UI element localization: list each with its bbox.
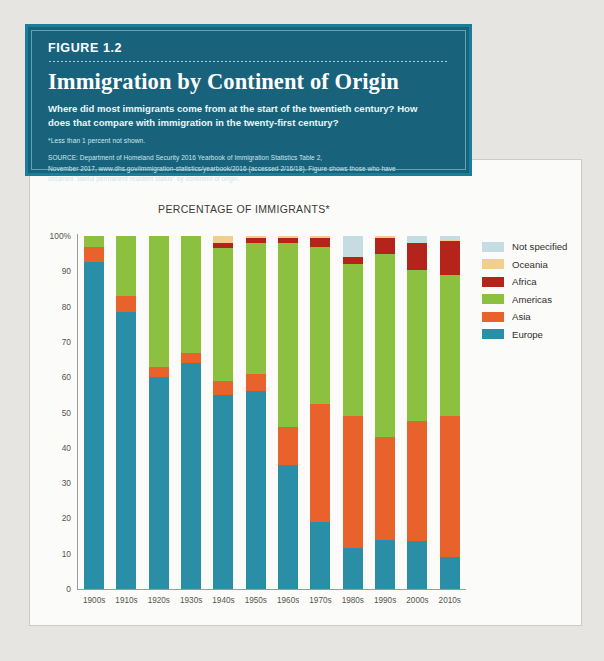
bar-column[interactable]: 2010s [434,236,466,589]
bar-segment-africa [375,238,395,254]
bar-segment-americas [310,247,330,404]
legend-item[interactable]: Americas [482,291,578,309]
y-axis-tick-label: 50 [37,408,71,418]
bar-segment-americas [407,270,427,422]
bar-stack [375,236,395,589]
bar-segment-asia [246,374,266,392]
bar-column[interactable]: 1970s [304,236,336,589]
legend-label: Africa [512,276,537,287]
figure-source-line: November 2017, www.dhs.gov/immigration-s… [48,164,449,175]
bar-column[interactable]: 1990s [369,236,401,589]
bar-column[interactable]: 1920s [143,236,175,589]
x-axis-line [77,589,466,590]
y-axis-tick-label: 30 [37,478,71,488]
bar-segment-asia [310,404,330,522]
bar-segment-americas [116,236,136,296]
page-background: FIGURE 1.2 Immigration by Continent of O… [0,0,604,661]
plot-area: 100%9080706050403020100 1900s1910s1920s1… [77,236,465,589]
bar-stack [213,236,233,589]
x-axis-tick-label: 1950s [245,596,267,605]
bar-segment-europe [343,548,363,589]
legend-item[interactable]: Asia [482,308,578,326]
y-axis-tick-label: 10 [37,549,71,559]
bar-column[interactable]: 1930s [175,236,207,589]
bar-stack [149,236,169,589]
legend-label: Asia [512,311,531,322]
y-axis-tick-label: 70 [37,337,71,347]
figure-subtitle: Where did most immigrants come from at t… [48,102,440,129]
bar-column[interactable]: 2000s [401,236,433,589]
bar-segment-americas [84,236,104,247]
bar-segment-asia [407,421,427,541]
bar-segment-europe [310,522,330,589]
chart-title: PERCENTAGE OF IMMIGRANTS* [29,203,459,215]
x-axis-tick-label: 1990s [374,596,396,605]
legend-item[interactable]: Not specified [482,238,578,256]
bar-segment-asia [213,381,233,395]
bar-segment-europe [84,262,104,589]
legend-item[interactable]: Europe [482,326,578,344]
bar-segment-asia [149,367,169,378]
y-axis-tick-label: 40 [37,443,71,453]
bar-column[interactable]: 1960s [272,236,304,589]
bar-segment-africa [343,257,363,264]
figure-footnote: *Less than 1 percent not shown. [48,137,449,144]
bar-column[interactable]: 1980s [337,236,369,589]
bar-segment-americas [149,236,169,367]
bar-column[interactable]: 1900s [78,236,110,589]
bar-segment-americas [375,254,395,438]
figure-source-line: obtained “lawful permanent resident stat… [48,174,449,185]
figure-number-label: FIGURE 1.2 [48,41,449,55]
legend-label: Not specified [512,241,567,252]
bar-segment-africa [407,243,427,269]
bar-segment-americas [343,264,363,416]
bar-column[interactable]: 1910s [110,236,142,589]
bar-segment-europe [149,377,169,589]
bar-stack [84,236,104,589]
bar-stack [310,236,330,589]
bar-segment-asia [278,427,298,466]
bar-segment-europe [375,540,395,589]
bar-segment-asia [181,353,201,364]
bar-column[interactable]: 1940s [207,236,239,589]
bar-stack [440,236,460,589]
dotted-divider [48,59,449,62]
chart-legend: Not specifiedOceaniaAfricaAmericasAsiaEu… [482,238,578,343]
legend-label: Europe [512,329,543,340]
bar-segment-europe [181,363,201,589]
bar-segment-americas [246,243,266,374]
x-axis-tick-label: 1960s [277,596,299,605]
x-axis-tick-label: 1940s [212,596,234,605]
figure-title: Immigration by Continent of Origin [48,69,449,95]
bar-segment-europe [440,557,460,589]
legend-swatch-icon [482,312,504,322]
chart-container: PERCENTAGE OF IMMIGRANTS* 100%9080706050… [29,183,580,624]
x-axis-tick-label: 1970s [309,596,331,605]
bar-segment-europe [246,391,266,589]
x-axis-tick-label: 1980s [342,596,364,605]
x-axis-tick-label: 1900s [83,596,105,605]
bar-segment-americas [181,236,201,352]
bar-segment-americas [213,248,233,380]
bar-group: 1900s1910s1920s1930s1940s1950s1960s1970s… [78,236,466,589]
figure-source-block: SOURCE: Department of Homeland Security … [48,153,449,185]
bar-segment-europe [407,541,427,589]
legend-swatch-icon [482,242,504,252]
bar-segment-asia [116,296,136,312]
x-axis-tick-label: 2000s [406,596,428,605]
x-axis-tick-label: 1920s [148,596,170,605]
bar-segment-oceania [213,236,233,243]
y-axis-tick-label: 0 [37,584,71,594]
bar-segment-europe [278,465,298,589]
legend-label: Oceania [512,259,548,270]
legend-item[interactable]: Oceania [482,256,578,274]
bar-segment-asia [84,247,104,263]
x-axis-tick-label: 1930s [180,596,202,605]
x-axis-tick-label: 2010s [439,596,461,605]
bar-column[interactable]: 1950s [240,236,272,589]
y-axis-tick-label: 80 [37,302,71,312]
bar-segment-africa [310,238,330,247]
legend-item[interactable]: Africa [482,273,578,291]
bar-segment-americas [278,243,298,427]
bar-segment-asia [343,416,363,548]
